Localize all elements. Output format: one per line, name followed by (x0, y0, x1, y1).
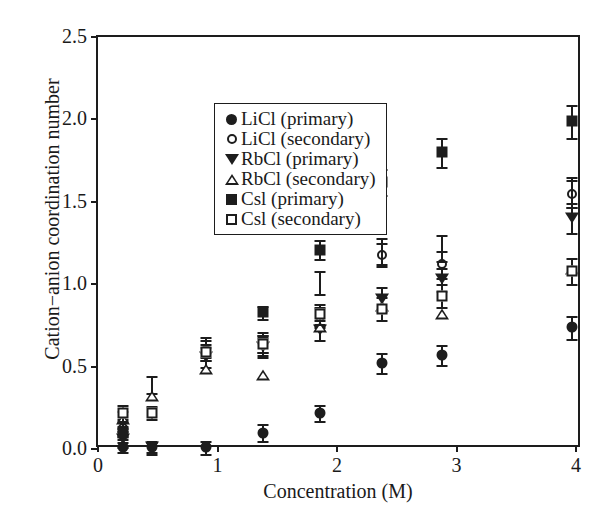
error-bar-cap (567, 138, 578, 140)
error-bar-cap (567, 316, 578, 318)
x-axis-label: Concentration (M) (96, 480, 580, 502)
data-point (145, 390, 159, 401)
error-bar-cap (315, 240, 326, 242)
data-point (315, 407, 326, 418)
error-bar-cap (377, 353, 388, 355)
x-tick-mark (575, 445, 577, 452)
data-point (118, 427, 129, 438)
x-tick-label: 3 (447, 455, 467, 475)
error-bar-cap (257, 332, 268, 334)
legend-marker-open-circle-icon (222, 134, 241, 144)
error-bar (571, 177, 573, 207)
data-point (377, 358, 388, 369)
data-point (145, 442, 159, 453)
error-bar-cap (377, 320, 388, 322)
error-bar-cap (437, 167, 448, 169)
error-bar-cap (437, 268, 448, 270)
error-bar-cap (567, 233, 578, 235)
data-point (567, 116, 578, 127)
error-bar-cap (567, 105, 578, 107)
legend-label: LiCl (primary) (241, 109, 353, 129)
error-bar-cap (567, 339, 578, 341)
data-point (435, 308, 449, 319)
error-bar (381, 238, 383, 264)
error-bar-cap (118, 447, 129, 449)
error-bar-cap (315, 405, 326, 407)
data-point (437, 350, 448, 361)
data-point (315, 308, 326, 319)
data-point (257, 427, 268, 438)
data-point (200, 442, 211, 453)
data-point (377, 303, 388, 314)
chart-legend: LiCl (primary)LiCl (secondary)RbCl (prim… (214, 103, 387, 235)
y-tick-mark (91, 36, 98, 38)
error-bar-cap (315, 340, 326, 342)
legend-marker-filled-square-icon (222, 194, 241, 205)
data-point (199, 363, 213, 374)
data-point (257, 307, 268, 318)
error-bar-cap (315, 271, 326, 273)
error-bar-cap (257, 424, 268, 426)
y-tick-mark (91, 366, 98, 368)
y-tick-label: 2.0 (62, 108, 87, 128)
error-bar-cap (118, 421, 129, 423)
chart-figure: 0.00.51.01.52.02.5 01234 LiCl (primary)L… (0, 0, 610, 524)
legend-item: RbCl (secondary) (222, 169, 376, 189)
error-bar-cap (437, 345, 448, 347)
error-bar-cap (118, 405, 129, 407)
x-tick-mark (217, 445, 219, 452)
legend-label: Csl (secondary) (241, 209, 361, 229)
data-point (567, 266, 578, 277)
data-point (257, 338, 268, 349)
error-bar-cap (377, 297, 388, 299)
error-bar-cap (567, 207, 578, 209)
y-tick-mark (91, 118, 98, 120)
y-tick-label: 0.0 (62, 438, 87, 458)
error-bar-cap (437, 261, 448, 263)
x-tick-mark (456, 445, 458, 452)
data-point (437, 147, 448, 158)
x-tick-mark (336, 445, 338, 452)
error-bar (441, 235, 443, 261)
legend-label: LiCl (secondary) (241, 129, 370, 149)
error-bar-cap (146, 419, 157, 421)
legend-item: LiCl (secondary) (222, 129, 376, 149)
x-tick-label: 4 (566, 455, 586, 475)
plot-area: 0.00.51.01.52.02.5 01234 LiCl (primary)L… (96, 35, 580, 447)
y-axis-label: Cation−anion coordination number (41, 13, 63, 425)
error-bar-cap (315, 294, 326, 296)
error-bar-cap (567, 284, 578, 286)
error-bar-cap (315, 421, 326, 423)
data-point (200, 346, 211, 357)
y-tick-mark (91, 283, 98, 285)
data-point (435, 274, 449, 285)
error-bar (319, 271, 321, 294)
data-point (146, 407, 157, 418)
error-bar-cap (377, 264, 388, 266)
data-point (565, 213, 579, 224)
legend-item: Csl (primary) (222, 189, 376, 209)
error-bar-cap (377, 287, 388, 289)
error-bar-cap (377, 238, 388, 240)
legend-marker-filled-triangle-down-icon (222, 154, 241, 165)
error-bar-cap (315, 304, 326, 306)
data-point (118, 407, 129, 418)
error-bar-cap (437, 365, 448, 367)
data-point (567, 322, 578, 333)
legend-item: RbCl (primary) (222, 149, 376, 169)
legend-label: RbCl (secondary) (241, 169, 376, 189)
y-tick-label: 1.5 (62, 191, 87, 211)
x-tick-label: 0 (88, 455, 108, 475)
data-point (437, 290, 448, 301)
error-bar-cap (437, 138, 448, 140)
error-bar-cap (200, 337, 211, 339)
error-bar-cap (257, 335, 268, 337)
error-bar-cap (437, 284, 448, 286)
error-bar-cap (315, 324, 326, 326)
error-bar-cap (567, 258, 578, 260)
legend-label: RbCl (primary) (241, 149, 359, 169)
y-tick-label: 2.5 (62, 26, 87, 46)
legend-marker-open-square-icon (222, 214, 241, 225)
legend-item: LiCl (primary) (222, 109, 376, 129)
error-bar-cap (200, 344, 211, 346)
